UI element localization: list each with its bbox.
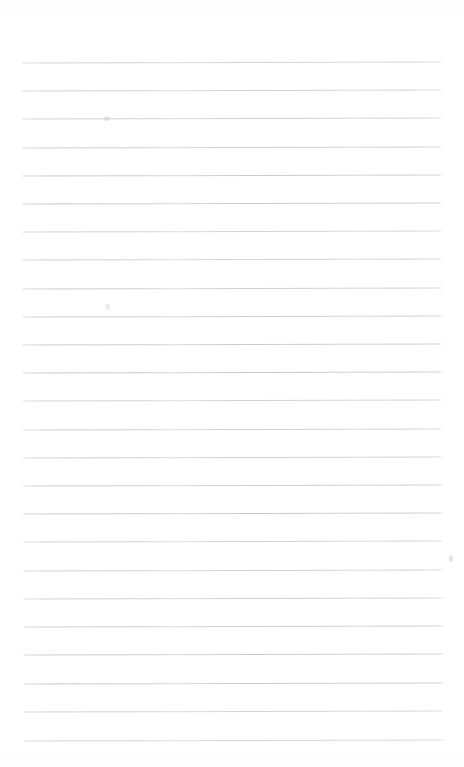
page-text-content xyxy=(0,0,464,767)
scanned-page xyxy=(0,0,464,767)
